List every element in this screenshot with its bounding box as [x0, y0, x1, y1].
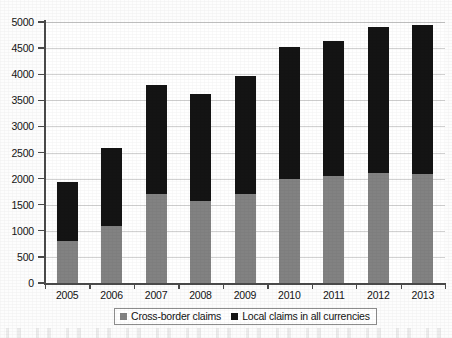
bar-segment-local-claims-2010: [279, 47, 300, 179]
page-bleed-overlay: [0, 328, 452, 338]
legend-item-local-claims: Local claims in all currencies: [231, 311, 370, 322]
y-tick-label-500: 500: [17, 252, 34, 262]
bar-segment-local-claims-2005: [57, 182, 78, 241]
y-tick-label-4000: 4000: [11, 69, 34, 79]
bar-segment-cross-border-2005: [57, 241, 78, 283]
x-tick-mark-6: [312, 283, 313, 289]
bar-group-2013: [412, 22, 433, 283]
gray-square-icon: [120, 313, 127, 320]
x-tick-label-2005: 2005: [45, 290, 89, 301]
legend-label-local-claims: Local claims in all currencies: [242, 311, 370, 322]
x-tick-mark-0: [45, 283, 46, 289]
bar-segment-local-claims-2009: [235, 76, 256, 195]
x-tick-label-2008: 2008: [178, 290, 222, 301]
x-tick-label-2009: 2009: [223, 290, 267, 301]
x-tick-label-2010: 2010: [267, 290, 311, 301]
x-tick-mark-4: [223, 283, 224, 289]
x-tick-mark-7: [356, 283, 357, 289]
x-tick-mark-3: [178, 283, 179, 289]
x-axis-line: [44, 283, 446, 285]
bar-segment-local-claims-2008: [190, 94, 211, 202]
black-square-icon: [231, 313, 238, 320]
bar-series-group: [45, 22, 445, 283]
bar-segment-local-claims-2006: [101, 148, 122, 225]
bar-group-2011: [323, 22, 344, 283]
bar-group-2005: [57, 22, 78, 283]
bar-segment-cross-border-2009: [235, 194, 256, 283]
x-tick-label-2013: 2013: [401, 290, 445, 301]
x-tick-label-2006: 2006: [89, 290, 133, 301]
bar-group-2006: [101, 22, 122, 283]
x-tick-mark-end: [445, 283, 446, 289]
bar-group-2009: [235, 22, 256, 283]
bar-segment-cross-border-2011: [323, 176, 344, 284]
bar-segment-cross-border-2013: [412, 174, 433, 283]
bar-segment-cross-border-2010: [279, 179, 300, 283]
bar-group-2010: [279, 22, 300, 283]
bar-segment-local-claims-2012: [368, 27, 389, 173]
y-tick-label-2500: 2500: [11, 148, 34, 158]
y-tick-label-1000: 1000: [11, 226, 34, 236]
x-tick-mark-2: [134, 283, 135, 289]
y-tick-label-0: 0: [28, 278, 34, 288]
y-tick-label-4500: 4500: [11, 43, 34, 53]
legend-item-cross-border: Cross-border claims: [120, 311, 221, 322]
chart-legend: Cross-border claims Local claims in all …: [114, 308, 377, 325]
y-tick-label-5000: 5000: [11, 17, 34, 27]
y-tick-label-1500: 1500: [11, 200, 34, 210]
x-tick-mark-1: [89, 283, 90, 289]
x-tick-label-2007: 2007: [134, 290, 178, 301]
bar-segment-local-claims-2007: [146, 85, 167, 194]
stacked-bar-chart: 0500100015002000250030003500400045005000…: [0, 0, 452, 338]
bar-segment-cross-border-2006: [101, 226, 122, 283]
bar-segment-local-claims-2013: [412, 25, 433, 174]
y-tick-label-2000: 2000: [11, 174, 34, 184]
x-tick-mark-5: [267, 283, 268, 289]
bar-segment-cross-border-2008: [190, 201, 211, 283]
x-tick-label-2011: 2011: [312, 290, 356, 301]
x-tick-label-2012: 2012: [356, 290, 400, 301]
y-tick-label-3500: 3500: [11, 95, 34, 105]
bar-group-2012: [368, 22, 389, 283]
legend-label-cross-border: Cross-border claims: [131, 311, 221, 322]
bar-segment-cross-border-2012: [368, 173, 389, 283]
bar-group-2008: [190, 22, 211, 283]
y-tick-label-3000: 3000: [11, 121, 34, 131]
x-tick-mark-8: [401, 283, 402, 289]
bar-segment-local-claims-2011: [323, 41, 344, 176]
bar-group-2007: [146, 22, 167, 283]
bar-segment-cross-border-2007: [146, 194, 167, 283]
